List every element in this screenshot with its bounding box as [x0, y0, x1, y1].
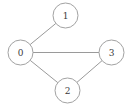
graph-node-label-3: 3	[109, 48, 115, 58]
graph-node-0[interactable]: 0	[8, 40, 33, 65]
graph-edge-0-1	[30, 23, 56, 44]
graph-node-1[interactable]: 1	[53, 3, 78, 28]
graph-edge-0-2	[30, 60, 58, 82]
graph-diagram: 0123	[0, 0, 131, 108]
graph-node-label-1: 1	[63, 11, 69, 21]
graph-edge-2-3	[77, 61, 102, 83]
graph-node-2[interactable]: 2	[55, 78, 80, 103]
edge-layer	[30, 23, 102, 82]
graph-canvas: 0123	[0, 0, 131, 108]
graph-node-label-2: 2	[65, 86, 71, 96]
graph-node-3[interactable]: 3	[99, 40, 124, 65]
graph-node-label-0: 0	[18, 48, 24, 58]
